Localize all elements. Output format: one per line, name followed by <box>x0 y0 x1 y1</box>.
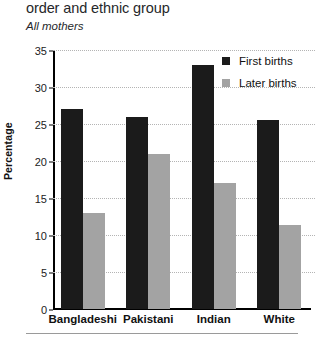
y-tick-label-20: 20 <box>35 156 47 168</box>
gridline-35: 35 <box>53 50 315 51</box>
x-category-label-white: White <box>264 313 295 325</box>
chart-legend: First birthsLater births <box>222 52 297 96</box>
gridline-0: 0 <box>53 309 315 310</box>
legend-item-later-births[interactable]: Later births <box>222 74 297 92</box>
legend-item-first-births[interactable]: First births <box>222 52 297 70</box>
y-tick-label-30: 30 <box>35 82 47 94</box>
legend-label: First births <box>239 55 293 67</box>
y-tick-label-15: 15 <box>35 193 47 205</box>
y-tick-mark-10 <box>49 236 53 237</box>
y-tick-mark-20 <box>49 162 53 163</box>
y-tick-label-5: 5 <box>41 267 47 279</box>
bar-bangladeshi-first-births <box>61 109 83 309</box>
footer-divider <box>26 333 298 334</box>
x-category-label-indian: Indian <box>197 313 231 325</box>
chart-subtitle: All mothers <box>26 20 84 33</box>
y-tick-mark-5 <box>49 273 53 274</box>
y-tick-mark-35 <box>49 51 53 52</box>
bar-white-first-births <box>257 120 279 309</box>
y-tick-mark-30 <box>49 88 53 89</box>
chart-title: order and ethnic group <box>26 0 170 17</box>
bar-pakistani-first-births <box>126 117 148 309</box>
y-tick-mark-25 <box>49 125 53 126</box>
y-tick-label-10: 10 <box>35 230 47 242</box>
bar-pakistani-later-births <box>148 154 170 309</box>
y-axis-title: Percentage <box>2 122 14 180</box>
bar-bangladeshi-later-births <box>83 213 105 309</box>
y-tick-label-35: 35 <box>35 45 47 57</box>
legend-swatch-first-births-icon <box>222 57 230 65</box>
x-category-label-pakistani: Pakistani <box>123 313 174 325</box>
x-category-label-bangladeshi: Bangladeshi <box>49 313 117 325</box>
y-tick-label-25: 25 <box>35 119 47 131</box>
y-tick-mark-15 <box>49 199 53 200</box>
bar-indian-first-births <box>192 65 214 309</box>
bar-indian-later-births <box>214 183 236 309</box>
bar-white-later-births <box>279 225 301 309</box>
legend-swatch-later-births-icon <box>222 79 230 87</box>
y-tick-mark-0 <box>49 310 53 311</box>
y-tick-label-0: 0 <box>41 304 47 316</box>
legend-label: Later births <box>239 77 297 89</box>
